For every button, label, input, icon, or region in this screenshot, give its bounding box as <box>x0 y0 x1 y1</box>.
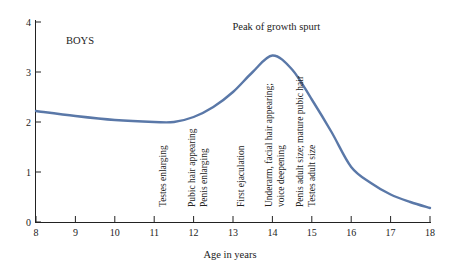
x-tick-label: 9 <box>73 227 78 238</box>
milestone-annotation: Testes adult size <box>307 145 317 207</box>
milestone-annotation: Penis enlarging <box>199 148 209 207</box>
y-tick-label: 4 <box>26 17 31 28</box>
y-tick-label: 1 <box>26 167 31 178</box>
series-label-boys: BOYS <box>66 35 94 46</box>
annotation-peak: Peak of growth spurt <box>232 21 320 32</box>
y-tick-label: 2 <box>26 117 31 128</box>
milestone-annotation: voice deepening <box>276 145 286 207</box>
milestone-annotation: First ejaculation <box>236 145 246 207</box>
milestone-annotation: Testes enlarging <box>158 145 168 207</box>
boys-growth-curve <box>36 55 430 208</box>
x-tick-label: 12 <box>189 227 199 238</box>
x-tick-label: 13 <box>228 227 238 238</box>
milestone-annotation: Underarm, facial hair appearing; <box>264 83 274 207</box>
x-tick-label: 11 <box>149 227 159 238</box>
milestone-annotation: Penis adult size; mature pubic hair <box>295 75 305 207</box>
y-tick-label: 0 <box>26 217 31 228</box>
x-tick-label: 15 <box>307 227 317 238</box>
y-axis-ticks: 01234 <box>26 17 41 228</box>
x-axis-ticks: 89101112131415161718 <box>34 216 436 238</box>
x-tick-label: 14 <box>267 227 277 238</box>
x-tick-label: 17 <box>386 227 396 238</box>
milestone-annotation: Pubic hair appearing <box>187 128 197 207</box>
x-tick-label: 8 <box>34 227 39 238</box>
x-axis-label: Age in years <box>203 249 256 260</box>
y-tick-label: 3 <box>26 67 31 78</box>
x-tick-label: 18 <box>425 227 435 238</box>
annotations: Peak of growth spurtTestes enlargingPubi… <box>158 21 321 208</box>
x-tick-label: 10 <box>110 227 120 238</box>
growth-chart: 01234 89101112131415161718 BOYS Age in y… <box>0 0 456 271</box>
x-tick-label: 16 <box>346 227 356 238</box>
